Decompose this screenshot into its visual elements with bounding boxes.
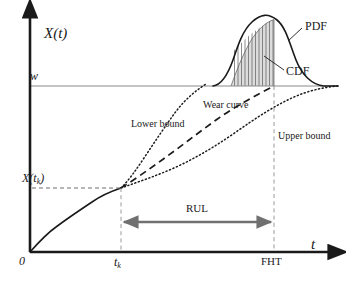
degradation-rul-figure: X(t) t w X(tk) 0 tk FHT PDF CDF Wear cur… [0,0,346,282]
x-axis-title: t [311,237,315,252]
x-tick-label-tk: tk [114,256,121,270]
xtk-close: ) [40,171,44,185]
lower-bound-annotation-label: Lower bound [131,119,185,129]
pdf-leader-line [288,28,302,41]
cdf-shaded-region [231,14,274,86]
xtk-base: X(t [22,171,37,185]
tk-subscript: k [117,261,121,270]
observed-degradation-curve [30,188,121,252]
wear-curve [121,86,274,188]
current-degradation-value-label: X(tk) [22,172,44,186]
y-axis-title: X(t) [44,26,67,41]
wear-curve-annotation-label: Wear curve [203,100,249,110]
upper-bound-annotation-label: Upper bound [278,131,331,141]
cdf-annotation-label: CDF [286,65,309,77]
figure-canvas [0,0,346,282]
pdf-annotation-label: PDF [305,20,327,32]
x-tick-label-fht: FHT [261,256,282,267]
origin-label: 0 [19,255,25,267]
threshold-label-w: w [30,70,38,82]
rul-annotation-label: RUL [186,203,208,214]
